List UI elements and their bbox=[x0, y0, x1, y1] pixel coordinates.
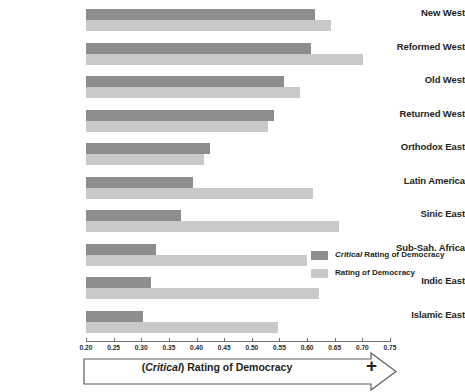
legend-label: Critical Rating of Democracy bbox=[335, 248, 444, 262]
x-axis-tick-label: 0.60 bbox=[301, 344, 314, 351]
bar-rating-of-democracy-orthodox-east bbox=[86, 154, 204, 165]
bar-rows-area: New WestReformed WestOld WestReturned We… bbox=[0, 0, 465, 340]
x-axis-tick bbox=[197, 338, 198, 342]
bar-rating-of-democracy-new-west bbox=[86, 20, 331, 31]
x-axis-tick-label: 0.70 bbox=[356, 344, 369, 351]
bar-row: Orthodox East bbox=[0, 135, 465, 169]
bar-rating-of-democracy-latin-america bbox=[86, 188, 313, 199]
bar-row: Latin America bbox=[0, 169, 465, 203]
bar-critical-rating-of-democracy-sinic-east bbox=[86, 210, 181, 221]
category-label-returned-west: Returned West bbox=[383, 108, 465, 120]
x-axis-tick bbox=[390, 338, 391, 342]
bar-row: Sinic East bbox=[0, 202, 465, 236]
bar-critical-rating-of-democracy-orthodox-east bbox=[86, 143, 210, 154]
legend-item[interactable]: Critical Rating of Democracy bbox=[311, 248, 465, 266]
bar-critical-rating-of-democracy-old-west bbox=[86, 76, 284, 87]
x-axis-tick-label: 0.55 bbox=[273, 344, 286, 351]
bar-rating-of-democracy-islamic-east bbox=[86, 322, 278, 333]
x-axis-tick-label: 0.45 bbox=[218, 344, 231, 351]
bar-row: Old West bbox=[0, 68, 465, 102]
bar-row: Islamic East bbox=[0, 303, 465, 337]
x-axis-tick-label: 0.65 bbox=[328, 344, 341, 351]
x-axis-tick bbox=[86, 338, 87, 342]
bar-critical-rating-of-democracy-indic-east bbox=[86, 277, 151, 288]
bar-rating-of-democracy-sub-sah-africa bbox=[86, 255, 307, 266]
x-axis-tick bbox=[224, 338, 225, 342]
x-axis-tick bbox=[252, 338, 253, 342]
x-axis-tick bbox=[169, 338, 170, 342]
bar-critical-rating-of-democracy-reformed-west bbox=[86, 43, 311, 54]
x-axis-line bbox=[86, 341, 390, 342]
bar-row: New West bbox=[0, 1, 465, 35]
chart-legend: Critical Rating of DemocracyRating of De… bbox=[311, 248, 465, 284]
bar-critical-rating-of-democracy-returned-west bbox=[86, 110, 274, 121]
category-label-orthodox-east: Orthodox East bbox=[383, 141, 465, 153]
chart-canvas: New WestReformed WestOld WestReturned We… bbox=[0, 0, 465, 392]
bar-critical-rating-of-democracy-sub-sah-africa bbox=[86, 244, 156, 255]
bar-critical-rating-of-democracy-latin-america bbox=[86, 177, 193, 188]
category-label-islamic-east: Islamic East bbox=[383, 309, 465, 321]
bar-rating-of-democracy-indic-east bbox=[86, 288, 319, 299]
x-axis-tick-label: 0.35 bbox=[162, 344, 175, 351]
category-label-old-west: Old West bbox=[383, 74, 465, 86]
bar-rating-of-democracy-reformed-west bbox=[86, 54, 363, 65]
x-axis-tick-label: 0.30 bbox=[135, 344, 148, 351]
legend-swatch bbox=[311, 269, 328, 278]
x-axis-tick-label: 0.40 bbox=[190, 344, 203, 351]
bar-row: Reformed West bbox=[0, 35, 465, 69]
bar-rating-of-democracy-sinic-east bbox=[86, 221, 339, 232]
legend-swatch bbox=[311, 251, 328, 260]
x-axis-title-suffix: ) Rating of Democracy bbox=[181, 361, 292, 373]
x-axis-title-italic: Critical bbox=[145, 361, 181, 373]
x-axis-title-arrow: (Critical) Rating of Democracy + bbox=[83, 352, 398, 392]
category-label-new-west: New West bbox=[383, 7, 465, 19]
plus-sign-icon: + bbox=[366, 356, 377, 375]
bar-row: Returned West bbox=[0, 102, 465, 136]
x-axis-tick-label: 0.25 bbox=[107, 344, 120, 351]
x-axis-tick bbox=[362, 338, 363, 342]
bar-rating-of-democracy-old-west bbox=[86, 87, 300, 98]
category-label-reformed-west: Reformed West bbox=[383, 41, 465, 53]
x-axis-tick bbox=[114, 338, 115, 342]
legend-label-italic: Critical bbox=[335, 250, 362, 259]
x-axis-tick-label: 0.50 bbox=[245, 344, 258, 351]
bar-rating-of-democracy-returned-west bbox=[86, 121, 268, 132]
category-label-sinic-east: Sinic East bbox=[383, 208, 465, 220]
x-axis-title: (Critical) Rating of Democracy bbox=[83, 361, 351, 373]
x-axis-tick-label: 0.20 bbox=[80, 344, 93, 351]
x-axis-tick bbox=[307, 338, 308, 342]
legend-item[interactable]: Rating of Democracy bbox=[311, 266, 465, 284]
x-axis-tick bbox=[279, 338, 280, 342]
legend-label: Rating of Democracy bbox=[335, 266, 415, 280]
x-axis-tick-label: 0.75 bbox=[384, 344, 397, 351]
category-label-latin-america: Latin America bbox=[383, 175, 465, 187]
bar-critical-rating-of-democracy-new-west bbox=[86, 9, 315, 20]
x-axis-tick bbox=[335, 338, 336, 342]
x-axis-tick bbox=[141, 338, 142, 342]
bar-critical-rating-of-democracy-islamic-east bbox=[86, 311, 143, 322]
